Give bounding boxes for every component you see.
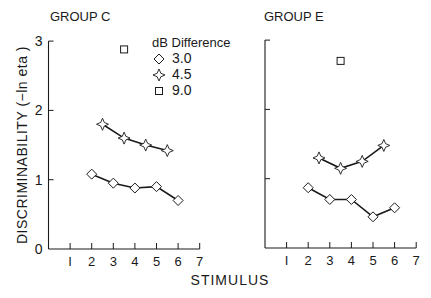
legend: dB Difference3.04.59.0 bbox=[152, 35, 231, 98]
panel-group-e: GROUP EI234567 bbox=[264, 9, 420, 268]
diamond-marker-icon bbox=[87, 169, 97, 179]
star-marker-icon bbox=[97, 118, 109, 130]
x-tick-label: 2 bbox=[88, 254, 95, 269]
x-tick-label: 6 bbox=[174, 254, 181, 269]
x-tick-label: 6 bbox=[391, 253, 398, 268]
panel-title: GROUP C bbox=[50, 9, 110, 24]
diamond-marker-icon bbox=[130, 183, 140, 193]
y-tick-label: 3 bbox=[35, 33, 43, 49]
square-marker-icon bbox=[121, 46, 128, 53]
x-tick-label: 5 bbox=[153, 254, 160, 269]
star-marker-icon bbox=[356, 155, 368, 167]
diamond-marker-icon bbox=[173, 195, 183, 205]
diamond-marker-icon bbox=[325, 194, 335, 204]
chart-canvas: GROUP C0123I234567GROUP EI234567dB Diffe… bbox=[0, 0, 431, 298]
x-tick-label: 4 bbox=[131, 254, 138, 269]
x-tick-label: 3 bbox=[326, 253, 333, 268]
x-tick-label: I bbox=[285, 253, 289, 268]
star-marker-icon bbox=[140, 139, 152, 151]
diamond-marker-icon bbox=[108, 178, 118, 188]
star-marker-icon bbox=[313, 152, 325, 164]
diamond-marker-icon bbox=[303, 183, 313, 193]
figure: GROUP C0123I234567GROUP EI234567dB Diffe… bbox=[0, 0, 431, 298]
star-marker-icon bbox=[335, 162, 347, 174]
y-axis-label: DISCRIMINABILITY (−ln eta ) bbox=[14, 46, 30, 244]
x-tick-label: 3 bbox=[110, 254, 117, 269]
series-line-4.5 bbox=[103, 124, 168, 150]
diamond-marker-icon bbox=[154, 54, 164, 64]
x-tick-label: 4 bbox=[348, 253, 355, 268]
legend-entry-label: 3.0 bbox=[172, 50, 192, 66]
x-tick-label: 5 bbox=[369, 253, 376, 268]
square-marker-icon bbox=[337, 57, 344, 64]
star-marker-icon bbox=[118, 132, 130, 144]
star-marker-icon bbox=[378, 139, 390, 151]
diamond-marker-icon bbox=[390, 203, 400, 213]
x-tick-label: 2 bbox=[305, 253, 312, 268]
diamond-marker-icon bbox=[152, 182, 162, 192]
x-tick-label: I bbox=[68, 254, 72, 269]
legend-entry-label: 9.0 bbox=[172, 82, 192, 98]
star-marker-icon bbox=[153, 69, 165, 81]
square-marker-icon bbox=[156, 88, 163, 95]
series-line-4.5 bbox=[319, 145, 384, 168]
x-tick-label: 7 bbox=[413, 253, 420, 268]
y-tick-label: 0 bbox=[35, 241, 43, 257]
y-tick-label: 2 bbox=[35, 102, 43, 118]
legend-entry-label: 4.5 bbox=[172, 66, 192, 82]
star-marker-icon bbox=[161, 145, 173, 157]
y-tick-label: 1 bbox=[35, 172, 43, 188]
panel-title: GROUP E bbox=[264, 9, 324, 24]
x-tick-label: 7 bbox=[196, 254, 203, 269]
x-axis-label: STIMULUS bbox=[191, 272, 270, 288]
legend-title: dB Difference bbox=[152, 35, 231, 50]
